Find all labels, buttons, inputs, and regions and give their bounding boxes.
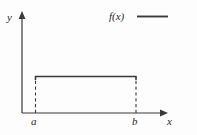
- y-axis-arrow-icon: [19, 11, 26, 19]
- x-axis-label: x: [167, 116, 172, 127]
- y-axis-label: y: [7, 12, 12, 23]
- legend-entry-label: f(x): [109, 11, 124, 22]
- function-curve-fx: [36, 77, 137, 80]
- x-tick-label-a: a: [31, 116, 37, 127]
- x-tick-label-b: b: [132, 116, 138, 127]
- function-plot-figure: y x a b f(x): [0, 0, 197, 135]
